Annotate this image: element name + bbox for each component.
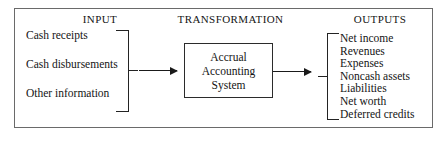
output-list-item: Liabilities [340, 82, 435, 95]
output-list-item: Revenues [340, 45, 435, 58]
arrow-system-to-outputs-icon [273, 71, 311, 72]
output-list-item: Deferred credits [340, 108, 435, 121]
output-list: Net income Revenues Expenses Noncash ass… [340, 32, 435, 120]
accrual-accounting-system-box: Accrual Accounting System [184, 43, 273, 98]
output-list-item: Noncash assets [340, 70, 435, 83]
system-box-line-2: Accounting [202, 64, 256, 78]
outputs-column-heading: OUTPUTS [330, 13, 430, 25]
accounting-system-diagram: INPUT TRANSFORMATION OUTPUTS Cash receip… [0, 0, 442, 141]
system-box-line-3: System [212, 78, 246, 92]
input-column-heading: INPUT [45, 13, 155, 25]
input-bracket-stub [129, 70, 138, 71]
system-box-line-1: Accrual [210, 50, 246, 64]
output-group-bracket [327, 33, 339, 120]
output-list-item: Net worth [340, 95, 435, 108]
output-list-item: Net income [340, 32, 435, 45]
transformation-column-heading: TRANSFORMATION [168, 13, 293, 25]
input-group-bracket [116, 30, 129, 112]
arrow-input-to-system-icon [139, 70, 177, 71]
output-list-item: Expenses [340, 57, 435, 70]
